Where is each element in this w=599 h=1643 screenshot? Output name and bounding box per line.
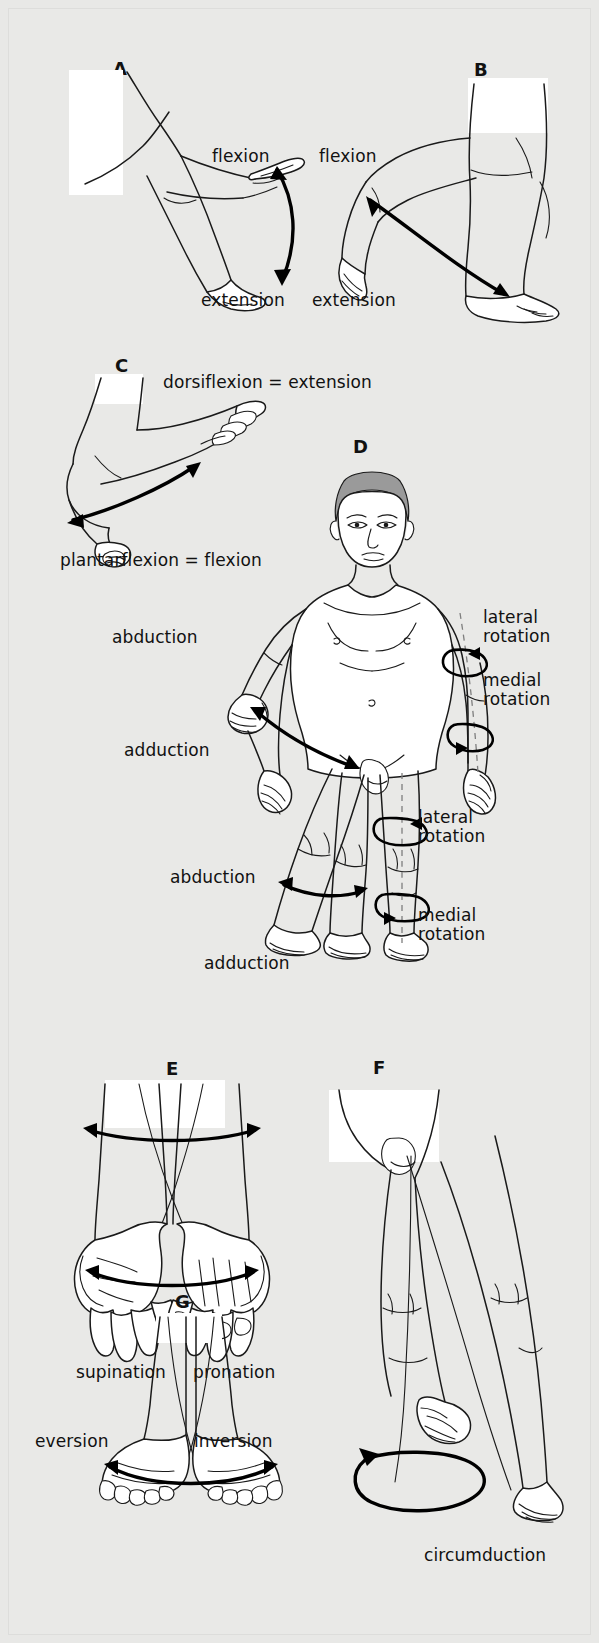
- label-d-leg-medial-rotation: medial rotation: [418, 906, 485, 944]
- panel-letter-f: F: [373, 1057, 385, 1078]
- label-a-flexion: flexion: [212, 147, 270, 166]
- label-b-flexion: flexion: [319, 147, 377, 166]
- label-a-extension: extension: [201, 291, 285, 310]
- label-g-eversion: eversion: [35, 1432, 109, 1451]
- label-g-inversion: inversion: [194, 1432, 273, 1451]
- panel-letter-b: B: [474, 59, 488, 80]
- panel-g-artwork: [68, 1313, 308, 1503]
- panel-d-artwork: [228, 463, 538, 983]
- panel-letter-d: D: [353, 436, 368, 457]
- panel-letter-g: G: [175, 1291, 190, 1312]
- label-d-leg-lateral-rotation: lateral rotation: [418, 808, 485, 846]
- label-d-shoulder-adduction: adduction: [124, 741, 210, 760]
- panel-f-artwork: [323, 1086, 591, 1526]
- label-d-arm-lateral-rotation: lateral rotation: [483, 608, 550, 646]
- label-d-hip-abduction: abduction: [170, 868, 256, 887]
- panel-a-artwork: [63, 66, 323, 316]
- label-b-extension: extension: [312, 291, 396, 310]
- label-c-dorsiflexion: dorsiflexion = extension: [163, 373, 372, 392]
- panel-letter-c: C: [115, 355, 128, 376]
- label-f-circumduction: circumduction: [424, 1546, 546, 1565]
- figure-plate: A: [8, 8, 591, 1635]
- panel-letter-e: E: [166, 1058, 178, 1079]
- label-d-arm-medial-rotation: medial rotation: [483, 671, 550, 709]
- figure-page: A: [0, 0, 599, 1643]
- label-d-shoulder-abduction: abduction: [112, 628, 198, 647]
- label-d-hip-adduction: adduction: [204, 954, 290, 973]
